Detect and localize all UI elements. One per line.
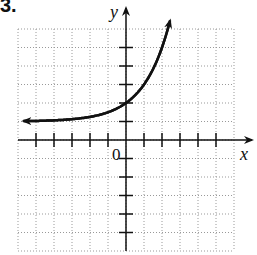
y-axis-label: y: [108, 2, 118, 22]
curve-left-part: [23, 24, 169, 121]
origin-label: 0: [112, 145, 121, 164]
exponential-curve: [23, 20, 170, 121]
graph: xy0: [0, 0, 257, 255]
x-axis-label: x: [239, 144, 248, 164]
